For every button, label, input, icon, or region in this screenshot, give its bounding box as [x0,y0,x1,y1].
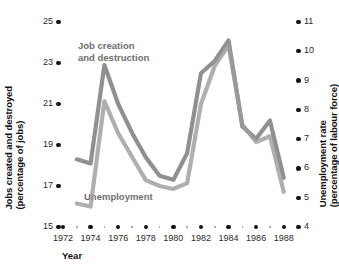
x-axis-tick-label-1974: 1974 [76,233,106,243]
x-axis-tick-label-1980: 1980 [158,233,188,243]
x-axis-tick-label-1984: 1984 [214,233,244,243]
x-axis-tick-label-1986: 1986 [241,233,271,243]
x-axis-tick-label-1972: 1972 [48,233,78,243]
x-axis-tick-label-1976: 1976 [103,233,133,243]
x-axis-tick-label-1982: 1982 [186,233,216,243]
x-axis-tick-label-1978: 1978 [131,233,161,243]
x-axis-tick-label-1988: 1988 [269,233,299,243]
